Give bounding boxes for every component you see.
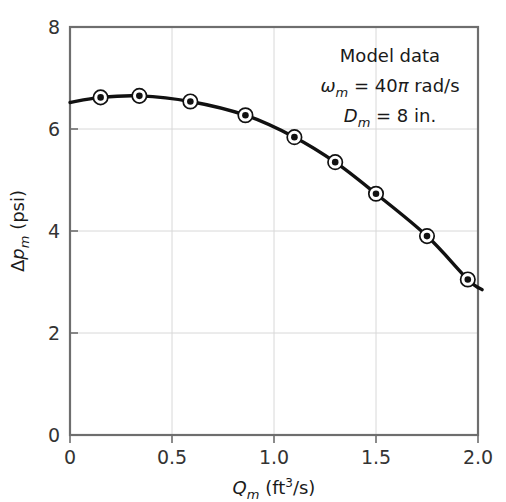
x-axis-tick-labels: 0 0.5 1.0 1.5 2.0	[64, 446, 493, 468]
data-point-marker	[461, 272, 475, 286]
data-point-marker	[132, 89, 146, 103]
annotation-omega-equals: = 40	[348, 75, 397, 96]
annotation-d-subscript: m	[358, 115, 371, 130]
marker-center-dot	[332, 159, 339, 166]
marker-center-dot	[242, 112, 249, 119]
y-axis-tick-labels: 8 6 4 2 0	[48, 16, 60, 446]
x-axis-title: Qm (ft3/s)	[233, 476, 316, 502]
pump-performance-chart: 8 6 4 2 0 0 0.5 1.0 1.5 2.0 Δpm (psi) Qm…	[0, 0, 506, 502]
y-axis-title: Δpm (psi)	[7, 190, 32, 272]
x-tick-label: 2.0	[463, 446, 493, 468]
x-tick-label: 1.0	[259, 446, 289, 468]
y-axis-unit: (psi)	[7, 190, 28, 236]
x-axis-subscript: m	[247, 487, 260, 502]
data-point-marker	[369, 187, 383, 201]
annotation-line-model-data: Model data	[340, 45, 440, 66]
marker-center-dot	[97, 94, 104, 101]
x-tick-label: 0	[64, 446, 76, 468]
marker-center-dot	[136, 93, 143, 100]
y-tick-label: 6	[48, 118, 60, 140]
annotation-omega-symbol: ω	[320, 75, 335, 96]
marker-center-dot	[187, 98, 194, 105]
y-tick-label: 2	[48, 322, 60, 344]
annotation-omega-units: rad/s	[409, 75, 460, 96]
y-tick-label: 4	[48, 220, 60, 242]
x-axis-unit-superscript: 3	[285, 476, 293, 490]
y-tick-label: 8	[48, 16, 60, 38]
y-axis-delta: Δ	[7, 259, 28, 272]
data-point-marker	[287, 130, 301, 144]
data-point-marker	[238, 108, 252, 122]
marker-center-dot	[465, 276, 472, 283]
x-axis-unit-post: /s)	[293, 477, 315, 498]
y-axis-subscript: m	[17, 236, 32, 249]
data-point-marker	[93, 90, 107, 104]
y-tick-label: 0	[48, 424, 60, 446]
x-tick-label: 1.5	[361, 446, 391, 468]
y-axis-p: p	[7, 248, 28, 260]
annotation-omega-subscript: m	[336, 85, 349, 100]
x-tick-label: 0.5	[157, 446, 187, 468]
x-axis-unit-pre: (ft	[259, 477, 285, 498]
marker-center-dot	[373, 190, 380, 197]
annotation-d-equals: = 8 in.	[370, 105, 436, 126]
x-axis-q: Q	[233, 477, 247, 498]
data-point-marker	[183, 94, 197, 108]
x-axis-ticks	[70, 435, 478, 443]
marker-center-dot	[291, 134, 298, 141]
marker-center-dot	[424, 233, 431, 240]
annotation-d-symbol: D	[344, 105, 358, 126]
chart-figure: 8 6 4 2 0 0 0.5 1.0 1.5 2.0 Δpm (psi) Qm…	[0, 0, 506, 502]
data-point-marker	[328, 155, 342, 169]
data-point-marker	[420, 229, 434, 243]
